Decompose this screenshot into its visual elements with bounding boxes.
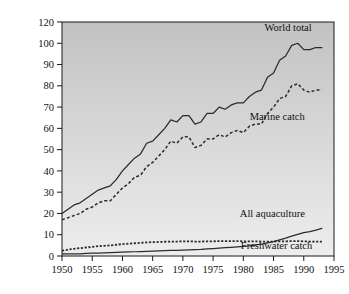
y-axis-ticks: 0102030405060708090100120 [38,17,62,262]
series-label-marine-catch: Marine catch [250,111,306,122]
plot-background [62,22,334,256]
y-tick-label: 10 [44,229,55,240]
y-tick-label: 120 [38,17,54,28]
y-tick-label: 90 [44,59,55,70]
y-tick-label: 0 [49,251,54,262]
y-tick-label: 40 [44,166,55,177]
x-axis-ticks: 1950195519601965197019751980198519901995 [52,256,345,275]
x-tick-label: 1950 [52,264,73,275]
y-tick-label: 50 [44,144,55,155]
x-tick-label: 1955 [82,264,103,275]
y-tick-label: 60 [44,123,55,134]
y-tick-label: 70 [44,102,55,113]
x-tick-label: 1960 [112,264,133,275]
fish-catch-chart-figure: Fish caught (million tons) 0102030405060… [0,0,349,294]
x-tick-label: 1985 [263,264,284,275]
x-tick-label: 1980 [233,264,254,275]
y-tick-label: 30 [44,187,55,198]
y-tick-label: 80 [44,80,55,91]
y-tick-label: 100 [38,38,54,49]
x-tick-label: 1970 [172,264,193,275]
x-tick-label: 1990 [293,264,314,275]
x-tick-label: 1965 [142,264,163,275]
series-label-world-total: World total [264,22,311,33]
x-tick-label: 1975 [203,264,224,275]
series-label-all-aquaculture: All aquaculture [240,208,305,219]
x-tick-label: 1995 [324,264,345,275]
chart-canvas: 0102030405060708090100120 19501955196019… [0,0,349,294]
y-tick-label: 20 [44,208,55,219]
series-label-freshwater-catch: Freshwater catch [241,240,313,251]
